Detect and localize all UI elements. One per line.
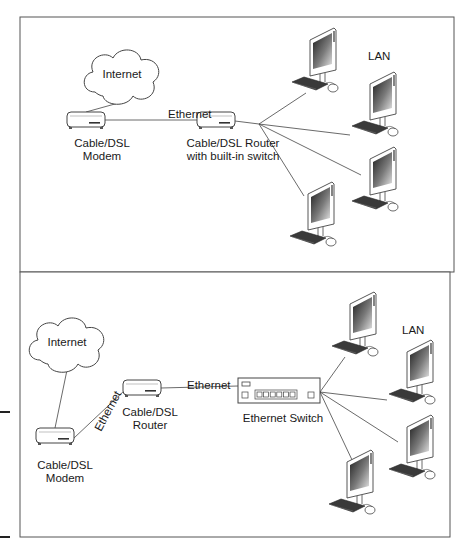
device-led-strip [89,122,100,124]
switch-uplink-port [242,392,248,398]
switch-port [277,392,282,397]
device-foot [156,395,159,397]
cable-dsl-modem-icon [67,112,105,129]
device-led-strip [145,390,156,392]
cloud-label: Internet [103,68,143,80]
switch-port [283,392,288,397]
switch-label: Ethernet Switch [243,412,324,424]
ethernet-switch-icon [238,378,320,403]
mouse-icon [328,84,338,92]
mouse-icon [326,238,336,246]
router-label-line1: Cable/DSL Router [187,137,280,149]
router-label-line1: Cable/DSL [122,406,178,418]
mouse-icon [368,348,378,356]
ethernet-link-label: Ethernet [168,108,212,120]
router-label-line2: Router [133,419,168,431]
mouse-icon [388,128,398,136]
device-foot [69,127,72,129]
mouse-icon [388,203,398,211]
panel-top: InternetCable/DSLModemCable/DSL Routerwi… [20,17,454,272]
mouse-icon [425,396,435,404]
modem-label-line2: Modem [83,150,121,162]
panel-bottom: InternetEthernetEthernet SwitchCable/DSL… [20,272,450,537]
cloud-label: Internet [48,336,88,348]
margin-tick-mark [0,411,10,413]
switch-port [264,392,269,397]
switch-indicator [242,382,250,386]
device-body [123,380,161,395]
modem-label-line1: Cable/DSL [37,459,93,471]
device-foot [69,443,72,445]
modem-label-line2: Modem [46,472,84,484]
switch-port [308,392,314,398]
router-label-line2: with built-in switch [186,150,280,162]
switch-port [290,392,295,397]
device-led-strip [219,122,230,124]
panel-border [20,272,450,537]
device-foot [230,127,233,129]
modem-label-line1: Cable/DSL [74,137,130,149]
mouse-icon [365,506,375,514]
switch-port [270,392,275,397]
device-body [36,428,74,443]
diagram-canvas: InternetCable/DSLModemCable/DSL Routerwi… [0,0,468,550]
cable-dsl-router-icon [123,380,161,397]
device-foot [38,443,41,445]
switch-port [257,392,262,397]
lan-label: LAN [368,50,390,62]
device-body [67,112,105,127]
margin-tick-mark [0,536,10,538]
device-foot [199,127,202,129]
device-led-strip [58,438,69,440]
lan-label: LAN [402,324,424,336]
ethernet-link-label: Ethernet [187,379,231,391]
cable-dsl-modem-icon [36,428,74,445]
network-diagram-figure: InternetCable/DSLModemCable/DSL Routerwi… [0,0,468,550]
device-foot [125,395,128,397]
mouse-icon [425,471,435,479]
device-foot [100,127,103,129]
